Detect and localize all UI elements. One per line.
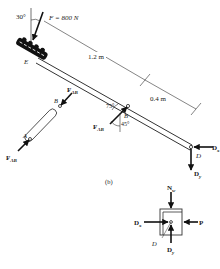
label-d-collar: D [151, 240, 157, 247]
force-fab-top-label: FAB [67, 86, 79, 95]
force-dy-label: Dy [194, 170, 202, 179]
force-fab-bottom-arrow [18, 140, 29, 151]
angle-75-label: 75° [106, 103, 115, 109]
angle-45-label: 45° [121, 121, 130, 127]
label-a: A [22, 132, 27, 139]
free-body-diagram: E 30° F = 800 N 1.2 m 0.4 m 75° 45° B FA… [0, 0, 220, 269]
force-nw-label: Nw [167, 184, 176, 193]
label-d-de: D [195, 152, 201, 160]
force-dy-collar-label: Dy [167, 246, 175, 255]
angle-arc-30 [31, 19, 40, 21]
dimension-lines [44, 21, 201, 115]
force-fab-top-arrow [61, 93, 72, 105]
label-b-ab: B [54, 97, 58, 104]
dimension-0-4m: 0.4 m [150, 95, 167, 103]
member-ab [23, 107, 58, 143]
label-b-de: B [124, 112, 128, 119]
figure-caption: (b) [105, 178, 113, 186]
force-f-label: F = 800 N [48, 14, 79, 22]
handle-grip [15, 35, 50, 61]
angle-30-label: 30° [16, 13, 26, 21]
force-fab-label-de: FAB [93, 123, 105, 132]
force-dx-collar-label: Dx [134, 219, 142, 228]
force-f-arrow [33, 12, 43, 40]
label-e: E [23, 58, 29, 66]
dimension-1-2m: 1.2 m [88, 53, 105, 61]
force-fab-bottom-label: FAB [6, 154, 18, 163]
force-p-label: P [199, 219, 204, 227]
pin-d [189, 145, 192, 148]
force-dx-label: Dx [212, 144, 220, 153]
